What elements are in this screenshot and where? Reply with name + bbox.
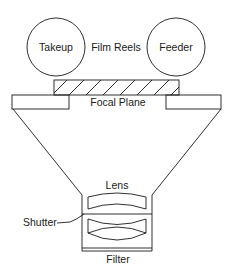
camera-optics-diagram: Takeup Film Reels Feeder Focal Plane [0,0,230,270]
upper-lens-element [88,193,146,209]
film-strip-hatch [50,80,186,97]
shutter-label: Shutter [23,216,57,228]
film-reels-label: Film Reels [91,41,141,53]
shutter-callout: Shutter [23,214,84,228]
focal-plane-right-block [166,95,221,109]
lens-assembly: Lens Filter [82,179,152,265]
focal-plane: Focal Plane [12,95,221,109]
takeup-reel: Takeup [27,18,85,76]
lower-lens-bottom-arc [88,233,146,240]
cone-left-edge [13,109,82,195]
lens-label: Lens [106,179,129,191]
lower-lens-element [88,219,146,233]
feeder-label: Feeder [159,41,193,53]
cone-right-edge [152,109,221,195]
filter-label: Filter [106,253,130,265]
feeder-reel: Feeder [147,18,205,76]
focal-plane-label: Focal Plane [90,96,146,108]
film-strip [50,80,186,97]
shutter-leader-line [57,214,84,223]
takeup-label: Takeup [39,41,73,53]
film-strip-outline [54,80,179,95]
focal-plane-left-block [12,95,69,109]
